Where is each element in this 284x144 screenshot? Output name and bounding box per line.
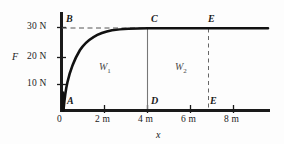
point-label-b: B	[66, 14, 73, 24]
x-tick-label-4m: 4 m	[138, 115, 153, 125]
region-label-w2: W2	[175, 62, 187, 75]
region-label-w1: W1	[99, 62, 111, 75]
x-tick-label-2m: 2 m	[95, 115, 110, 125]
point-label-e-bottom: E	[210, 96, 217, 106]
force-distance-figure: 30 N 20 N 10 N F 0 2 m 4 m 6 m 8 m x B C…	[0, 0, 284, 144]
x-tick-label-8m: 8 m	[224, 115, 239, 125]
x-tick-label-6m: 6 m	[181, 115, 196, 125]
x-axis-label: x	[156, 130, 160, 140]
force-curve	[64, 28, 269, 110]
region-w1-subscript: 1	[107, 67, 111, 75]
point-label-a: A	[67, 96, 74, 106]
point-label-c: C	[151, 14, 158, 24]
y-tick-label-20: 20 N	[27, 52, 47, 62]
y-tick-label-10: 10 N	[27, 79, 47, 89]
point-label-e-top: E	[208, 14, 215, 24]
point-label-d: D	[151, 96, 158, 106]
y-tick-label-30: 30 N	[27, 22, 47, 32]
region-w2-subscript: 2	[183, 67, 187, 75]
y-axis-label: F	[12, 52, 18, 62]
origin-label: 0	[57, 115, 62, 125]
